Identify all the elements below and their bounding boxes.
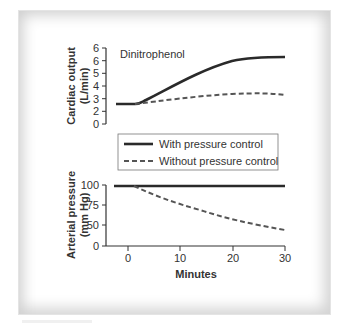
x-axis-title: Minutes <box>175 268 217 280</box>
xtick-0: 0 <box>125 252 131 264</box>
svg-text:(L/min): (L/min) <box>78 67 90 104</box>
bottom-x-ticks <box>128 246 285 251</box>
svg-text:(mm Hg): (mm Hg) <box>78 192 90 237</box>
top-ytick-5: 5 <box>93 67 99 79</box>
top-ytick-6: 6 <box>93 55 99 67</box>
svg-text:Arterial pressure: Arterial pressure <box>65 171 77 259</box>
xtick-20: 20 <box>227 252 239 264</box>
top-ytick-3: 3 <box>93 93 99 105</box>
drug-annotation: Dinitrophenol <box>120 48 185 60</box>
bottom-ytick-0: 0 <box>93 240 99 252</box>
xtick-10: 10 <box>174 252 186 264</box>
top-y-label: Cardiac output (L/min) <box>65 47 90 125</box>
top-ytick-4: 4 <box>93 80 99 92</box>
xtick-30: 30 <box>279 252 291 264</box>
top-ytick-6b: 6 <box>93 42 99 54</box>
bottom-ytick-100: 100 <box>81 179 99 191</box>
top-ytick-0: 0 <box>93 118 99 130</box>
top-chart: 0 2 3 4 5 6 6 Cardiac output (L/min) Din… <box>65 42 285 130</box>
svg-text:Cardiac output: Cardiac output <box>65 47 77 125</box>
bottom-chart: 100 75 50 0 0 10 20 30 Minutes Arterial … <box>65 171 291 280</box>
bottom-dashed-line <box>134 186 285 230</box>
legend-label-with: With pressure control <box>159 138 263 150</box>
legend: With pressure control Without pressure c… <box>118 134 278 170</box>
legend-label-without: Without pressure control <box>159 155 278 167</box>
top-ytick-2: 2 <box>93 105 99 117</box>
chart-canvas: 0 2 3 4 5 6 6 Cardiac output (L/min) Din… <box>0 0 344 327</box>
